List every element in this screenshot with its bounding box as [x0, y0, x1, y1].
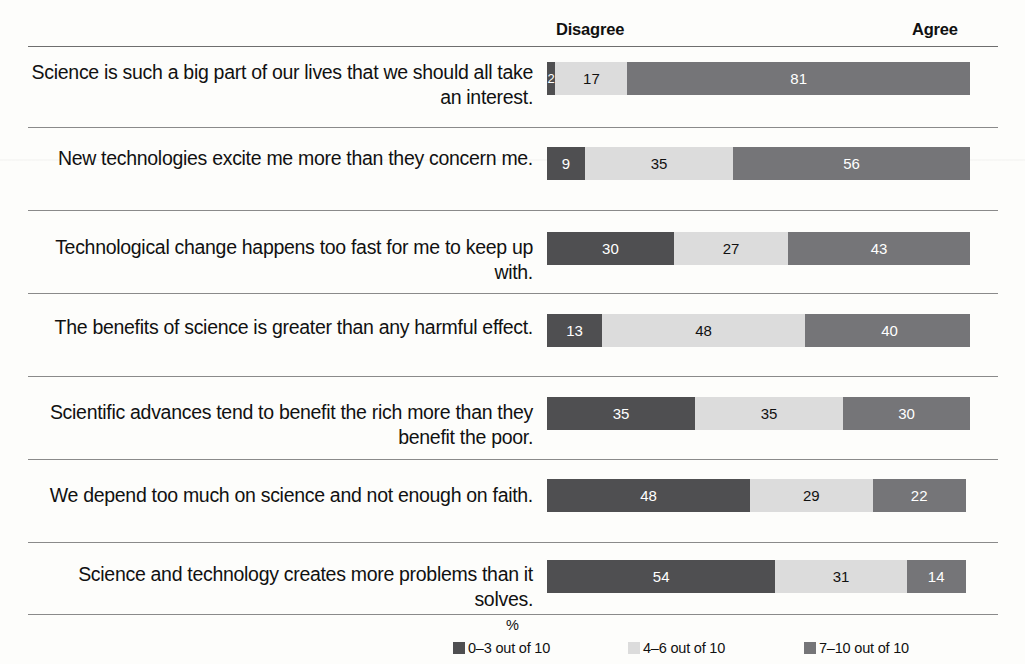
bar-segment-4-6[interactable]: 35	[695, 397, 843, 430]
row-label: Scientific advances tend to benefit the …	[28, 400, 533, 450]
bar-segment-value: 43	[871, 240, 888, 257]
stacked-bar: 21781	[547, 62, 970, 95]
bar-segment-value: 54	[653, 568, 670, 585]
scale-label-disagree: Disagree	[556, 20, 624, 39]
bar-segment-7-10[interactable]: 40	[805, 314, 970, 347]
bar-segment-4-6[interactable]: 35	[585, 147, 733, 180]
bar-segment-4-6[interactable]: 29	[750, 479, 873, 512]
bar-segment-value: 27	[723, 240, 740, 257]
row-label: Science and technology creates more prob…	[28, 562, 533, 612]
legend-item-4-6[interactable]: 4–6 out of 10	[628, 640, 725, 656]
bar-segment-value: 31	[833, 568, 850, 585]
bar-segment-value: 48	[640, 487, 657, 504]
legend-item-7-10[interactable]: 7–10 out of 10	[804, 640, 909, 656]
row-separator	[28, 46, 998, 47]
bar-segment-0-3[interactable]: 54	[547, 560, 775, 593]
scale-label-agree: Agree	[912, 20, 958, 39]
bar-segment-7-10[interactable]: 56	[733, 147, 970, 180]
row-label: The benefits of science is greater than …	[28, 315, 533, 340]
legend-swatch-7-10	[804, 642, 816, 654]
stacked-bar: 134840	[547, 314, 970, 347]
legend-label-0-3: 0–3 out of 10	[468, 640, 550, 656]
stacked-bar-chart: Disagree Agree Science is such a big par…	[0, 0, 1025, 664]
bar-segment-value: 35	[613, 405, 630, 422]
row-separator	[28, 210, 998, 211]
stacked-bar: 482922	[547, 479, 970, 512]
legend-swatch-4-6	[628, 642, 640, 654]
bar-segment-0-3[interactable]: 13	[547, 314, 602, 347]
bar-segment-0-3[interactable]: 30	[547, 232, 674, 265]
bar-segment-value: 56	[843, 155, 860, 172]
bar-segment-value: 9	[562, 155, 570, 172]
bar-segment-value: 35	[651, 155, 668, 172]
row-label: We depend too much on science and not en…	[28, 483, 533, 508]
bar-segment-4-6[interactable]: 48	[602, 314, 805, 347]
stacked-bar: 543114	[547, 560, 970, 593]
bar-segment-7-10[interactable]: 43	[788, 232, 970, 265]
bar-segment-value: 30	[898, 405, 915, 422]
bar-segment-value: 29	[803, 487, 820, 504]
row-separator	[28, 376, 998, 377]
legend-swatch-0-3	[453, 642, 465, 654]
bar-segment-7-10[interactable]: 22	[873, 479, 966, 512]
stacked-bar: 353530	[547, 397, 970, 430]
row-label: Technological change happens too fast fo…	[28, 235, 533, 285]
bar-segment-value: 17	[583, 70, 600, 87]
chart-legend: 0–3 out of 10 4–6 out of 10 7–10 out of …	[0, 640, 1025, 662]
bar-segment-4-6[interactable]: 31	[775, 560, 906, 593]
bar-segment-0-3[interactable]: 35	[547, 397, 695, 430]
stacked-bar: 302743	[547, 232, 970, 265]
scale-header: Disagree Agree	[28, 20, 998, 46]
bar-segment-value: 2	[548, 71, 555, 86]
row-separator	[28, 614, 998, 615]
bar-segment-value: 48	[695, 322, 712, 339]
bar-segment-value: 30	[602, 240, 619, 257]
bar-segment-value: 40	[881, 322, 898, 339]
legend-label-4-6: 4–6 out of 10	[643, 640, 725, 656]
axis-label-percent: %	[0, 617, 1025, 633]
bar-segment-0-3[interactable]: 2	[547, 62, 555, 95]
bar-segment-0-3[interactable]: 48	[547, 479, 750, 512]
row-separator	[28, 293, 998, 294]
bar-segment-value: 81	[790, 70, 807, 87]
bar-segment-4-6[interactable]: 27	[674, 232, 788, 265]
row-label: New technologies excite me more than the…	[28, 146, 533, 171]
bar-segment-7-10[interactable]: 30	[843, 397, 970, 430]
legend-item-0-3[interactable]: 0–3 out of 10	[453, 640, 550, 656]
row-separator	[28, 542, 998, 543]
legend-label-7-10: 7–10 out of 10	[819, 640, 909, 656]
stacked-bar: 93556	[547, 147, 970, 180]
bar-segment-value: 13	[566, 322, 583, 339]
bar-segment-7-10[interactable]: 81	[627, 62, 970, 95]
bar-segment-0-3[interactable]: 9	[547, 147, 585, 180]
bar-segment-4-6[interactable]: 17	[555, 62, 627, 95]
bar-segment-value: 35	[761, 405, 778, 422]
bar-segment-value: 14	[928, 568, 945, 585]
row-separator	[28, 459, 998, 460]
bar-segment-7-10[interactable]: 14	[907, 560, 966, 593]
bar-segment-value: 22	[911, 487, 928, 504]
row-separator	[28, 127, 998, 128]
row-label: Science is such a big part of our lives …	[28, 60, 533, 110]
